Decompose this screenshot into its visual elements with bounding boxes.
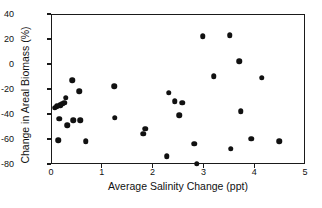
y-tick-mark — [47, 63, 51, 64]
plot-area — [51, 14, 305, 164]
y-tick-mark — [47, 38, 51, 39]
data-point — [227, 32, 233, 38]
data-point — [63, 95, 69, 101]
data-point — [276, 139, 282, 145]
data-point — [70, 77, 76, 83]
y-tick-label: -40 — [1, 110, 14, 119]
scatter-chart-figure: 40200-20-40-60-80 012345 Average Salinit… — [0, 0, 322, 208]
y-tick-label: 40 — [4, 10, 14, 19]
data-point — [141, 131, 147, 137]
x-tick-mark — [203, 164, 204, 168]
data-point — [248, 136, 254, 142]
data-point — [166, 90, 172, 96]
x-tick-mark — [101, 164, 102, 168]
data-point — [61, 100, 67, 106]
y-tick-mark — [47, 13, 51, 14]
x-tick-label: 5 — [302, 168, 307, 177]
y-tick-label: -20 — [1, 85, 14, 94]
x-tick-label: 1 — [99, 168, 104, 177]
data-point — [228, 146, 234, 152]
y-tick-mark — [47, 138, 51, 139]
y-tick-label: -80 — [1, 160, 14, 169]
y-tick-label: 0 — [9, 60, 14, 69]
y-tick-label: 20 — [4, 35, 14, 44]
data-point — [179, 100, 185, 106]
data-point — [83, 139, 89, 145]
data-point — [172, 99, 178, 105]
data-point — [78, 117, 84, 123]
y-tick-mark — [47, 113, 51, 114]
x-tick-label: 4 — [252, 168, 257, 177]
data-point — [112, 84, 118, 90]
data-point — [191, 141, 197, 147]
data-point — [237, 59, 243, 65]
x-tick-label: 0 — [48, 168, 53, 177]
y-axis-title: Change in Areal Biomass (%) — [19, 15, 31, 175]
data-point — [143, 126, 149, 132]
data-point — [211, 74, 217, 80]
data-point — [71, 117, 77, 123]
data-point — [55, 137, 61, 143]
x-tick-label: 2 — [150, 168, 155, 177]
x-axis-title: Average Salinity Change (ppt) — [51, 180, 305, 192]
data-point — [64, 122, 70, 128]
x-tick-mark — [152, 164, 153, 168]
data-point — [176, 112, 182, 118]
y-tick-mark — [47, 163, 51, 164]
data-point — [200, 34, 206, 40]
data-point — [194, 161, 200, 167]
data-point — [259, 75, 265, 81]
data-point — [112, 115, 118, 121]
data-point — [238, 109, 244, 115]
data-point — [164, 154, 170, 160]
y-tick-label: -60 — [1, 135, 14, 144]
data-point — [77, 89, 83, 95]
x-tick-mark — [254, 164, 255, 168]
x-tick-label: 3 — [201, 168, 206, 177]
data-point — [56, 116, 62, 122]
y-tick-mark — [47, 88, 51, 89]
